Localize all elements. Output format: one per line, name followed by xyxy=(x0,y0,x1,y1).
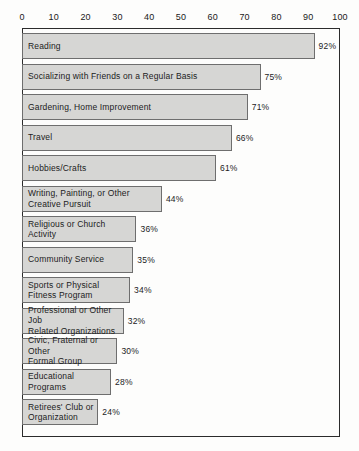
axis-tick-label: 50 xyxy=(176,12,186,22)
bar-row: Community Service35% xyxy=(22,247,340,273)
bar-value-label: 32% xyxy=(124,308,146,334)
bar-value-label: 34% xyxy=(130,277,152,303)
bar-row: Religious or Church Activity36% xyxy=(22,216,340,242)
bar-category-label: Educational Programs xyxy=(28,371,74,392)
bar-value-label: 28% xyxy=(111,369,133,395)
axis-tick-label: 30 xyxy=(112,12,122,22)
bar-category-label: Civic, Fraternal or Other Formal Group xyxy=(28,335,116,367)
bar-chart: 0102030405060708090100 Reading92%Sociali… xyxy=(0,0,359,451)
bar-row: Sports or Physical Fitness Program34% xyxy=(22,277,340,303)
bar-value-label: 71% xyxy=(248,94,270,120)
bar: Religious or Church Activity xyxy=(22,216,136,242)
bar-value-label: 61% xyxy=(216,155,238,181)
axis-tick-label: 70 xyxy=(239,12,249,22)
bar-category-label: Gardening, Home Improvement xyxy=(28,102,151,113)
bar: Sports or Physical Fitness Program xyxy=(22,277,130,303)
bar-category-label: Religious or Church Activity xyxy=(28,219,106,240)
bar-category-label: Writing, Painting, or Other Creative Pur… xyxy=(28,188,130,209)
bar: Reading xyxy=(22,33,315,59)
axis-tick-label: 0 xyxy=(19,12,24,22)
bar-category-label: Community Service xyxy=(28,254,104,265)
bar-category-label: Hobbies/Crafts xyxy=(28,163,86,174)
x-axis: 0102030405060708090100 xyxy=(22,12,340,28)
bar-row: Reading92% xyxy=(22,33,340,59)
bar-row: Educational Programs28% xyxy=(22,369,340,395)
bar-value-label: 44% xyxy=(162,186,184,212)
bar-category-label: Reading xyxy=(28,41,61,52)
bar-value-label: 75% xyxy=(261,64,283,90)
bar: Gardening, Home Improvement xyxy=(22,94,248,120)
axis-tick-label: 10 xyxy=(49,12,59,22)
bar-row: Socializing with Friends on a Regular Ba… xyxy=(22,64,340,90)
axis-tick-label: 80 xyxy=(271,12,281,22)
bar: Civic, Fraternal or Other Formal Group xyxy=(22,338,117,364)
bar-row: Hobbies/Crafts61% xyxy=(22,155,340,181)
bar-category-label: Socializing with Friends on a Regular Ba… xyxy=(28,71,197,82)
bar: Professional or Other Job Related Organi… xyxy=(22,308,124,334)
bar: Community Service xyxy=(22,247,133,273)
bar-row: Retirees' Club or Organization24% xyxy=(22,399,340,425)
axis-tick-label: 90 xyxy=(303,12,313,22)
bar-row: Gardening, Home Improvement71% xyxy=(22,94,340,120)
bar-row: Travel66% xyxy=(22,125,340,151)
bar-category-label: Travel xyxy=(28,132,52,143)
bar: Travel xyxy=(22,125,232,151)
axis-tick-label: 40 xyxy=(144,12,154,22)
bar-row: Writing, Painting, or Other Creative Pur… xyxy=(22,186,340,212)
bar-category-label: Sports or Physical Fitness Program xyxy=(28,280,99,301)
bar-value-label: 30% xyxy=(117,338,139,364)
bars-layer: Reading92%Socializing with Friends on a … xyxy=(22,28,340,437)
bar: Hobbies/Crafts xyxy=(22,155,216,181)
bar-category-label: Professional or Other Job Related Organi… xyxy=(28,305,123,337)
bar-value-label: 24% xyxy=(98,399,120,425)
bar-value-label: 36% xyxy=(136,216,158,242)
bar-value-label: 35% xyxy=(133,247,155,273)
bar-value-label: 66% xyxy=(232,125,254,151)
bar: Retirees' Club or Organization xyxy=(22,399,98,425)
axis-tick-label: 20 xyxy=(80,12,90,22)
bar: Writing, Painting, or Other Creative Pur… xyxy=(22,186,162,212)
bar-row: Civic, Fraternal or Other Formal Group30… xyxy=(22,338,340,364)
axis-tick-label: 100 xyxy=(332,12,348,22)
bar-value-label: 92% xyxy=(315,33,337,59)
bar-category-label: Retirees' Club or Organization xyxy=(28,402,94,423)
bar: Educational Programs xyxy=(22,369,111,395)
bar: Socializing with Friends on a Regular Ba… xyxy=(22,64,261,90)
bar-row: Professional or Other Job Related Organi… xyxy=(22,308,340,334)
axis-tick-label: 60 xyxy=(208,12,218,22)
